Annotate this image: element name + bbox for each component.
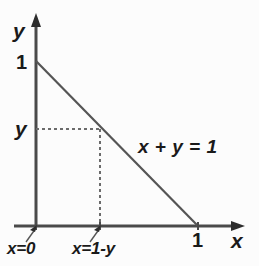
- line-plot-figure: y x 1 y 1 x + y = 1 x=0 x=1-y: [0, 0, 259, 266]
- y-axis-tick-label-one: 1: [16, 52, 27, 72]
- y-axis: [31, 13, 41, 226]
- x-axis-label: x: [231, 230, 243, 251]
- x-axis: [14, 221, 245, 231]
- y-axis-tick-label-y: y: [15, 118, 27, 139]
- plot-canvas: [0, 0, 259, 266]
- x-axis-tick-label-one: 1: [192, 230, 203, 250]
- callout-label-x-one-minus-y: x=1-y: [72, 240, 115, 257]
- callout-label-x-zero: x=0: [7, 240, 35, 257]
- line-equation-label: x + y = 1: [138, 137, 218, 156]
- y-axis-arrowhead: [31, 13, 41, 27]
- y-axis-label: y: [13, 20, 25, 41]
